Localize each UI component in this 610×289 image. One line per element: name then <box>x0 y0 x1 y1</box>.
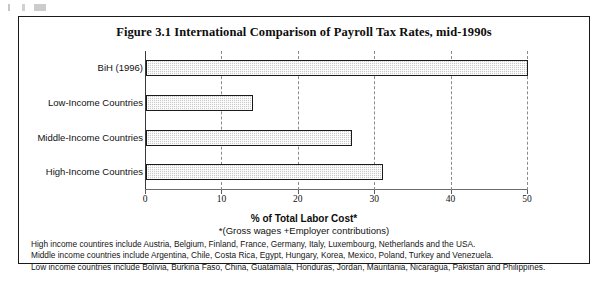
x-tick-label-30: 30 <box>369 194 379 204</box>
x-tick-label-20: 20 <box>293 194 303 204</box>
category-label-high-income: High-Income Countries <box>0 166 143 177</box>
x-axis-footnote: *(Gross wages +Employer contributions) <box>19 225 589 236</box>
note-high-income: High income countires include Austria, B… <box>31 239 579 250</box>
bar-row: Middle-Income Countries <box>145 121 527 156</box>
category-label-bih: BiH (1996) <box>0 62 143 73</box>
figure-title: Figure 3.1 International Comparison of P… <box>19 25 589 40</box>
bar-middle-income <box>146 130 352 146</box>
figure-panel: Figure 3.1 International Comparison of P… <box>18 16 590 264</box>
bar-row: High-Income Countries <box>145 155 527 190</box>
bar-low-income <box>146 95 253 111</box>
x-tick-label-0: 0 <box>143 194 148 204</box>
scan-artifact <box>8 4 60 11</box>
figure-notes: High income countires include Austria, B… <box>31 239 579 273</box>
note-middle-income: Middle income countries include Argentin… <box>31 250 579 261</box>
bar-bih <box>146 60 528 76</box>
chart-plot-area: 0 10 20 30 40 50 BiH (1996) Low-Income C… <box>145 51 527 190</box>
category-label-low-income: Low-Income Countries <box>0 97 143 108</box>
bar-row: Low-Income Countries <box>145 86 527 121</box>
category-label-middle-income: Middle-Income Countries <box>0 132 143 143</box>
bar-row: BiH (1996) <box>145 51 527 86</box>
x-axis-title: % of Total Labor Cost* <box>19 213 589 224</box>
x-tick-label-10: 10 <box>217 194 227 204</box>
x-tick-label-50: 50 <box>522 194 532 204</box>
bar-high-income <box>146 164 383 180</box>
x-tick-label-40: 40 <box>446 194 456 204</box>
note-low-income: Low income countries include Bolivia, Bu… <box>31 262 579 273</box>
